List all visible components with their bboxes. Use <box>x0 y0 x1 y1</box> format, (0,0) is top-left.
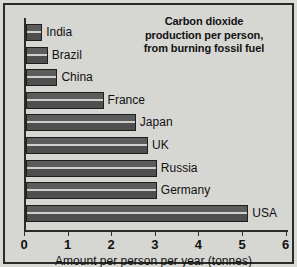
x-axis-tick-label: 0 <box>14 237 34 252</box>
x-axis-label: Amount per person per year (tonnes) <box>11 254 296 267</box>
bar <box>26 47 48 64</box>
bar-row: Russia <box>26 160 288 177</box>
bar-row: India <box>26 24 288 41</box>
x-axis-tick <box>242 230 243 236</box>
bar-label: France <box>104 92 145 109</box>
x-axis-tick <box>198 230 199 236</box>
bar-label: Russia <box>157 160 198 177</box>
bar <box>26 205 248 222</box>
x-axis-tick-label: 2 <box>101 237 121 252</box>
bar-row: Brazil <box>26 47 288 64</box>
bar-label: India <box>42 24 72 41</box>
x-axis-tick-label: 3 <box>145 237 165 252</box>
bar-row: USA <box>26 205 288 222</box>
x-axis-tick <box>155 230 156 236</box>
x-axis-tick-label: 1 <box>58 237 78 252</box>
chart-figure: Carbon dioxide production per person, fr… <box>0 0 297 267</box>
x-axis-tick <box>24 230 25 236</box>
bar-label: Germany <box>157 182 210 199</box>
x-axis-tick-label: 5 <box>232 237 252 252</box>
bar-label: USA <box>248 205 277 222</box>
bar-label: China <box>57 69 92 86</box>
bar-label: Japan <box>136 114 173 131</box>
bar <box>26 69 57 86</box>
x-axis-tick-label: 4 <box>188 237 208 252</box>
bar <box>26 92 104 109</box>
bar <box>26 182 157 199</box>
x-axis-tick-label: 6 <box>276 237 296 252</box>
bar <box>26 160 157 177</box>
bar <box>26 114 136 131</box>
x-axis-tick <box>68 230 69 236</box>
x-axis-tick <box>111 230 112 236</box>
bar <box>26 137 148 154</box>
bar <box>26 24 42 41</box>
bar-row: France <box>26 92 288 109</box>
chart-frame: Carbon dioxide production per person, fr… <box>3 3 294 264</box>
bar-row: Germany <box>26 182 288 199</box>
plot-area: IndiaBrazilChinaFranceJapanUKRussiaGerma… <box>24 18 286 230</box>
bar-row: China <box>26 69 288 86</box>
bar-row: UK <box>26 137 288 154</box>
x-axis-line <box>24 230 288 232</box>
x-axis-tick <box>286 230 287 236</box>
bar-label: UK <box>148 137 169 154</box>
chart-panel: Carbon dioxide production per person, fr… <box>11 11 296 266</box>
bar-label: Brazil <box>48 47 82 64</box>
bar-row: Japan <box>26 114 288 131</box>
